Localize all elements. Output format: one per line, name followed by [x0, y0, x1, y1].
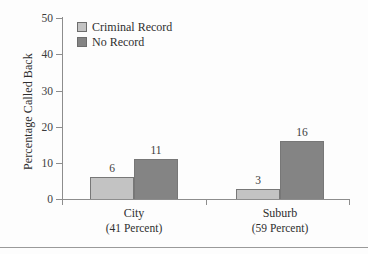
x-group-name-city: City: [124, 206, 145, 220]
legend-swatch-criminal-record: [77, 22, 87, 32]
y-tick-40: 40: [56, 54, 62, 55]
bar-value-city-no-record: 11: [150, 143, 161, 157]
x-tick-right: [349, 199, 350, 205]
x-group-sub-suburb: (59 Percent): [210, 221, 350, 236]
y-axis-title: Percentage Called Back: [21, 32, 36, 192]
y-tick-label-0: 0: [47, 191, 53, 207]
x-tick-left: [62, 199, 63, 205]
legend-label-criminal-record: Criminal Record: [92, 20, 172, 34]
legend: Criminal Record No Record: [77, 20, 172, 50]
legend-swatch-no-record: [77, 37, 87, 47]
y-tick-label-10: 10: [42, 155, 54, 171]
x-group-label-suburb: Suburb (59 Percent): [210, 206, 350, 236]
y-axis-line: [62, 17, 63, 200]
x-group-label-city: City (41 Percent): [64, 206, 204, 236]
y-tick-label-30: 30: [42, 83, 54, 99]
bar-suburb-no-record: 16: [280, 141, 324, 200]
bar-city-no-record: 11: [134, 159, 178, 200]
bar-value-suburb-no-record: 16: [296, 125, 308, 139]
y-tick-label-40: 40: [42, 46, 54, 62]
y-tick-30: 30: [56, 91, 62, 92]
bar-value-suburb-criminal-record: 3: [255, 173, 261, 187]
legend-entry-no-record: No Record: [77, 35, 172, 49]
bar-value-city-criminal-record: 6: [109, 161, 115, 175]
y-tick-10: 10: [56, 163, 62, 164]
y-tick-20: 20: [56, 127, 62, 128]
bar-city-criminal-record: 6: [90, 177, 134, 200]
legend-entry-criminal-record: Criminal Record: [77, 20, 172, 34]
y-tick-label-20: 20: [42, 119, 54, 135]
bar-chart-figure: Percentage Called Back 50 40 30 20 10 0 …: [0, 0, 368, 254]
y-tick-50: 50: [56, 18, 62, 19]
legend-label-no-record: No Record: [92, 35, 144, 49]
x-group-name-suburb: Suburb: [263, 206, 298, 220]
x-group-sub-city: (41 Percent): [64, 221, 204, 236]
bottom-divider: [0, 247, 368, 248]
y-tick-label-50: 50: [42, 10, 54, 26]
x-tick-group-divider: [206, 199, 207, 205]
